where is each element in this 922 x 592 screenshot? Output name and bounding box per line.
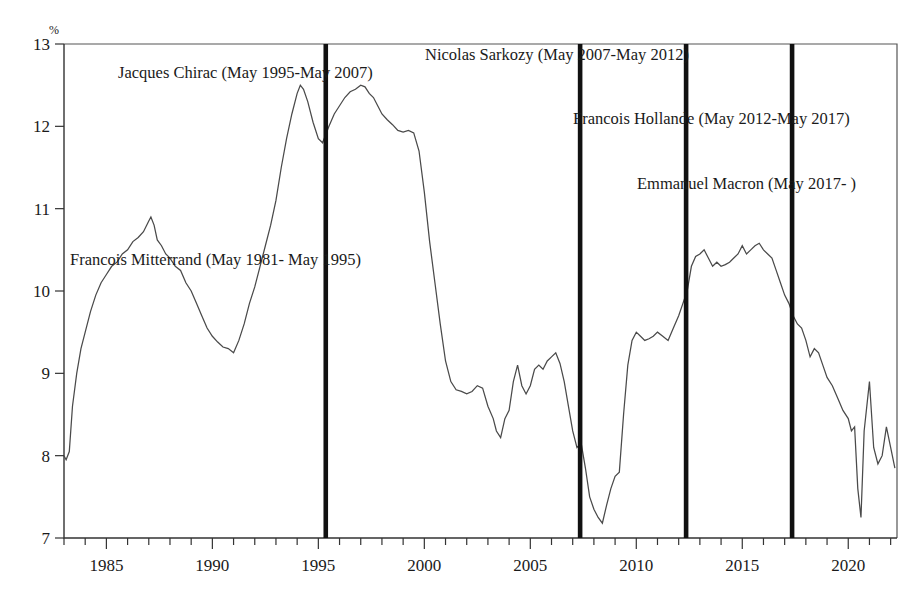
x-axis-tick-labels: 19851990199520002005201020152020 bbox=[89, 556, 865, 575]
president-annotations: Francois Mitterrand (May 1981- May 1995)… bbox=[70, 45, 856, 269]
x-tick-label: 2015 bbox=[725, 556, 759, 575]
y-tick-label: 13 bbox=[33, 35, 50, 54]
y-tick-label: 8 bbox=[42, 447, 51, 466]
percent-unit-label: % bbox=[49, 23, 59, 37]
y-axis-tick-labels: 78910111213 bbox=[33, 35, 51, 548]
annotation-hollande: Francois Hollande (May 2012-May 2017) bbox=[573, 109, 850, 128]
annotation-macron: Emmanuel Macron (May 2017- ) bbox=[637, 174, 856, 193]
y-axis-unit-label: % bbox=[49, 23, 59, 37]
annotation-sarkozy: Nicolas Sarkozy (May 2007-May 2012) bbox=[425, 45, 689, 64]
x-tick-label: 1990 bbox=[195, 556, 229, 575]
x-tick-label: 1985 bbox=[89, 556, 123, 575]
chart-container: 78910111213 1985199019952000200520102015… bbox=[0, 0, 922, 592]
unemployment-line-chart: 78910111213 1985199019952000200520102015… bbox=[0, 0, 922, 592]
y-tick-label: 12 bbox=[33, 117, 50, 136]
series-unemployment-rate bbox=[64, 85, 895, 523]
x-tick-label: 2020 bbox=[831, 556, 865, 575]
annotation-chirac: Jacques Chirac (May 1995-May 2007) bbox=[118, 63, 373, 82]
y-axis-ticks bbox=[55, 44, 64, 538]
annotation-mitterrand: Francois Mitterrand (May 1981- May 1995) bbox=[70, 250, 361, 269]
x-axis-ticks bbox=[64, 538, 891, 549]
series-line-unemployment bbox=[64, 85, 895, 523]
x-tick-label: 1995 bbox=[301, 556, 335, 575]
x-tick-label: 2010 bbox=[619, 556, 653, 575]
y-tick-label: 11 bbox=[34, 200, 50, 219]
y-tick-label: 9 bbox=[42, 364, 51, 383]
x-tick-label: 2000 bbox=[407, 556, 441, 575]
x-tick-label: 2005 bbox=[513, 556, 547, 575]
y-tick-label: 10 bbox=[33, 282, 50, 301]
y-tick-label: 7 bbox=[42, 529, 51, 548]
